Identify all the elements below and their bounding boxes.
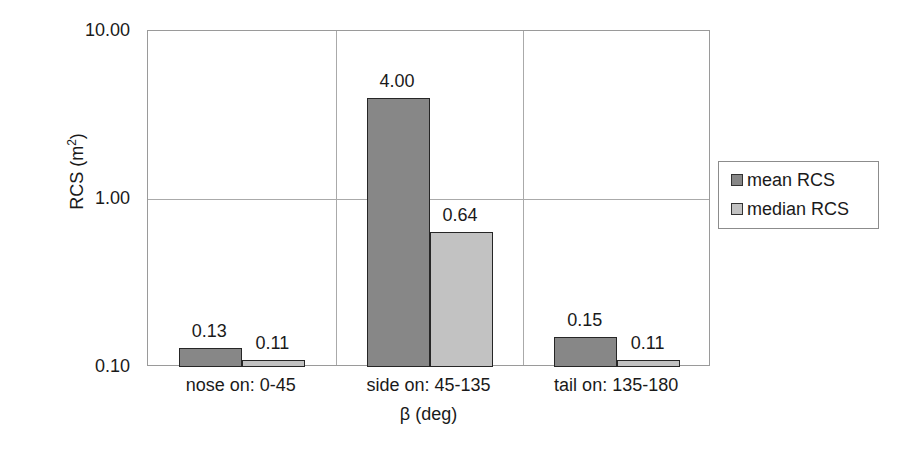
legend-item-median-rcs[interactable]: median RCS bbox=[731, 198, 849, 220]
bar-median-0 bbox=[242, 360, 305, 367]
y-axis-title-tail: ) bbox=[67, 133, 87, 139]
legend-label-mean: mean RCS bbox=[747, 171, 835, 189]
x-tick-label-1: side on: 45-135 bbox=[335, 375, 523, 396]
chart-legend: mean RCS median RCS bbox=[718, 161, 879, 229]
bar-value-mean-2: 0.15 bbox=[535, 310, 634, 331]
y-axis-title: RCS (m2) bbox=[65, 102, 88, 242]
category-separator-1 bbox=[336, 31, 337, 365]
bar-median-2 bbox=[617, 360, 680, 367]
x-tick-label-0: nose on: 0-45 bbox=[147, 375, 335, 396]
legend-swatch-mean-icon bbox=[731, 174, 743, 186]
bar-value-median-0: 0.11 bbox=[223, 333, 322, 354]
y-axis: RCS (m2) bbox=[46, 0, 138, 451]
legend-swatch-median-icon bbox=[731, 203, 743, 215]
category-separator-2 bbox=[523, 31, 524, 365]
y-tick-label-0.1: 0.10 bbox=[46, 357, 130, 375]
x-tick-label-2: tail on: 135-180 bbox=[522, 375, 710, 396]
bar-mean-1 bbox=[367, 98, 430, 367]
y-tick-label-1: 1.00 bbox=[46, 189, 130, 207]
bar-median-1 bbox=[430, 232, 493, 367]
bar-value-mean-1: 4.00 bbox=[348, 71, 447, 92]
y-tick-label-10: 10.00 bbox=[46, 21, 130, 39]
legend-label-median: median RCS bbox=[747, 200, 849, 218]
x-axis-title: β (deg) bbox=[147, 404, 710, 425]
bar-value-median-2: 0.11 bbox=[598, 333, 697, 354]
y-axis-title-exponent: 2 bbox=[65, 139, 79, 146]
bar-value-median-1: 0.64 bbox=[411, 205, 510, 226]
rcs-bar-chart: RCS (m2) 10.00 1.00 0.10 0.130.114.000.6… bbox=[0, 0, 903, 451]
legend-item-mean-rcs[interactable]: mean RCS bbox=[731, 169, 835, 191]
